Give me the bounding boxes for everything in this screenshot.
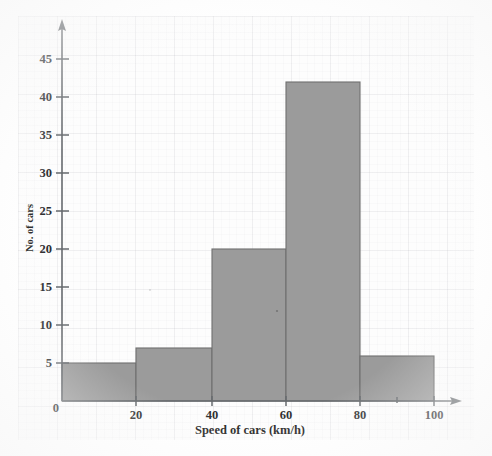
y-tick-label-35: 35 [40,128,53,142]
y-tick-label-5: 5 [46,356,52,370]
x-tick-label-20: 20 [130,408,143,422]
bar-40-60[interactable] [212,249,286,401]
bar-20-40[interactable] [136,348,212,401]
x-tick-label-80: 80 [354,408,367,422]
y-tick-label-25: 25 [40,204,53,218]
chart-page: 45 40 35 30 25 20 15 10 5 0 20 40 60 80 … [0,0,492,456]
x-tick-label-40: 40 [206,408,219,422]
x-tick-labels-group: 20 40 60 80 100 [130,408,444,422]
bar-0-20[interactable] [62,363,136,401]
y-tick-label-40: 40 [40,90,53,104]
y-tick-label-10: 10 [40,318,53,332]
x-tick-label-60: 60 [280,408,293,422]
y-tick-label-45: 45 [40,52,53,66]
x-axis-title: Speed of cars (km/h) [195,423,305,437]
y-tick-label-30: 30 [40,166,53,180]
y-tick-label-20: 20 [40,242,53,256]
origin-label: 0 [53,401,59,415]
y-tick-labels-group: 45 40 35 30 25 20 15 10 5 0 [40,52,60,415]
scan-speck [149,289,151,291]
scan-speck [276,310,278,312]
x-tick-label-100: 100 [425,408,444,422]
y-axis-title: No. of cars [24,204,35,252]
y-tick-label-15: 15 [40,280,53,294]
histogram-chart: 45 40 35 30 25 20 15 10 5 0 20 40 60 80 … [0,0,492,456]
bar-80-100[interactable] [360,356,434,401]
bar-60-80[interactable] [286,82,360,401]
bars-group [62,82,434,401]
